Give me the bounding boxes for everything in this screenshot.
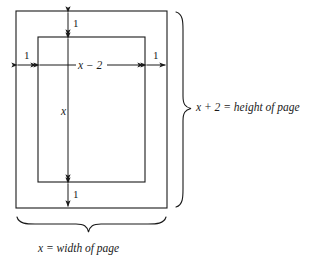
- right-margin-label: 1: [153, 50, 159, 61]
- inner-width-label: x − 2: [78, 60, 102, 72]
- bottom-margin-label: 1: [73, 189, 79, 200]
- top-margin-label: 1: [73, 18, 79, 29]
- bottom-brace: [17, 217, 166, 232]
- page-outline-rect: [16, 11, 167, 208]
- width-of-page-caption: x = width of page: [38, 243, 119, 255]
- inner-height-label: x: [61, 106, 66, 118]
- height-of-page-caption: x + 2 = height of page: [196, 102, 300, 114]
- diagram-canvas: [0, 0, 323, 267]
- figure-container: 1 1 1 1 x − 2 x x + 2 = height of page x…: [0, 0, 323, 267]
- right-brace: [176, 12, 191, 207]
- left-margin-label: 1: [24, 50, 30, 61]
